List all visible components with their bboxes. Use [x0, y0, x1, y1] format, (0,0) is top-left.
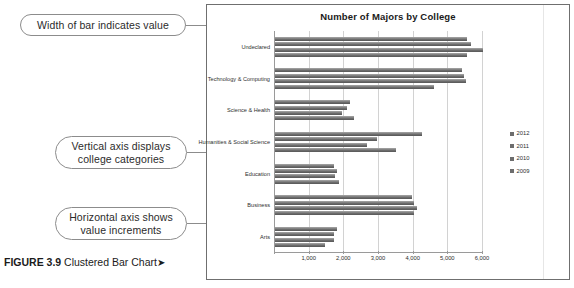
bar-cluster: Education [275, 158, 482, 190]
legend-swatch-icon [510, 132, 514, 136]
bar-2010 [275, 48, 483, 52]
bar-2010 [275, 174, 335, 178]
legend-label: 2012 [517, 129, 530, 139]
tick-mark [309, 251, 310, 254]
category-label: Humanities & Social Science [192, 138, 275, 145]
bar-2009 [275, 243, 325, 247]
annotation-horizontal-axis-label: Horizontal axis shows value increments [65, 211, 177, 237]
tick-mark [447, 251, 448, 254]
caption-arrow-icon: ➤ [157, 257, 165, 268]
legend-swatch-icon [510, 169, 514, 173]
category-label: Science & Health [192, 107, 275, 114]
tick-mark [274, 251, 275, 254]
bar-cluster: Technology & Computing [275, 63, 482, 95]
x-tick-label: 1,000 [301, 255, 316, 261]
annotation-width-of-bar-label: Width of bar indicates value [37, 19, 169, 32]
legend-label: 2009 [517, 167, 530, 177]
bar-2009 [275, 211, 414, 215]
x-tick-label: 3,000 [371, 255, 386, 261]
legend-label: 2011 [517, 142, 529, 152]
bar-2012 [275, 37, 467, 41]
annotation-horizontal-axis: Horizontal axis shows value increments [55, 207, 187, 240]
bar-cluster: Humanities & Social Science [275, 126, 482, 158]
bar-cluster: Science & Health [275, 94, 482, 126]
bar-2010 [275, 79, 466, 83]
chart-title: Number of Majors by College [207, 11, 569, 22]
bar-cluster: Arts [275, 221, 482, 253]
bar-2011 [275, 106, 347, 110]
figure-caption: FIGURE 3.9 Clustered Bar Chart➤ [4, 256, 194, 270]
tick-mark [482, 251, 483, 254]
gridline-6000 [482, 31, 483, 253]
bar-2012 [275, 164, 334, 168]
bar-2012 [275, 100, 350, 104]
bar-2012 [275, 227, 337, 231]
category-label: Arts [192, 234, 275, 241]
x-tick-label: 6,000 [475, 255, 490, 261]
chart-legend: 2012201120102009 [510, 129, 529, 179]
tick-mark [378, 251, 379, 254]
bar-2009 [275, 148, 396, 152]
bar-2011 [275, 42, 471, 46]
category-label: Business [192, 202, 275, 209]
figure-caption-label: FIGURE 3.9 [4, 256, 61, 268]
bar-2011 [275, 201, 414, 205]
bar-2011 [275, 74, 464, 78]
bar-2010 [275, 238, 334, 242]
tick-mark [343, 251, 344, 254]
legend-swatch-icon [510, 144, 514, 148]
bar-2010 [275, 143, 367, 147]
annotation-vertical-axis: Vertical axis displays college categorie… [55, 136, 187, 169]
bar-2009 [275, 180, 339, 184]
x-axis-tick-row: 1,0002,0003,0004,0005,0006,000 [274, 255, 482, 265]
annotation-vertical-axis-label: Vertical axis displays college categorie… [65, 140, 177, 166]
bar-2009 [275, 53, 467, 57]
legend-label: 2010 [517, 154, 530, 164]
bar-2012 [275, 68, 462, 72]
chart-panel: Number of Majors by College UndeclaredTe… [206, 4, 570, 280]
category-label: Technology & Computing [192, 75, 275, 82]
legend-item[interactable]: 2010 [510, 154, 529, 164]
bar-2012 [275, 132, 422, 136]
x-tick-label: 5,000 [440, 255, 455, 261]
legend-item[interactable]: 2011 [510, 142, 529, 152]
bar-cluster: Undeclared [275, 31, 482, 63]
bar-2011 [275, 232, 334, 236]
bar-2010 [275, 206, 417, 210]
annotation-width-of-bar: Width of bar indicates value [20, 14, 186, 36]
x-tick-label: 4,000 [405, 255, 420, 261]
bar-2011 [275, 169, 337, 173]
tick-mark [413, 251, 414, 254]
x-tick-label: 2,000 [336, 255, 351, 261]
category-label: Undeclared [192, 43, 275, 50]
bar-2009 [275, 116, 354, 120]
bar-cluster: Business [275, 190, 482, 222]
legend-item[interactable]: 2012 [510, 129, 529, 139]
figure-caption-text: Clustered Bar Chart [61, 256, 157, 268]
bar-2010 [275, 111, 342, 115]
bar-2009 [275, 85, 434, 89]
legend-item[interactable]: 2009 [510, 167, 529, 177]
plot-area: UndeclaredTechnology & ComputingScience … [274, 31, 482, 253]
bar-2012 [275, 195, 412, 199]
legend-swatch-icon [510, 157, 514, 161]
panel-gutter [543, 5, 544, 279]
category-label: Education [192, 170, 275, 177]
bar-2011 [275, 137, 377, 141]
